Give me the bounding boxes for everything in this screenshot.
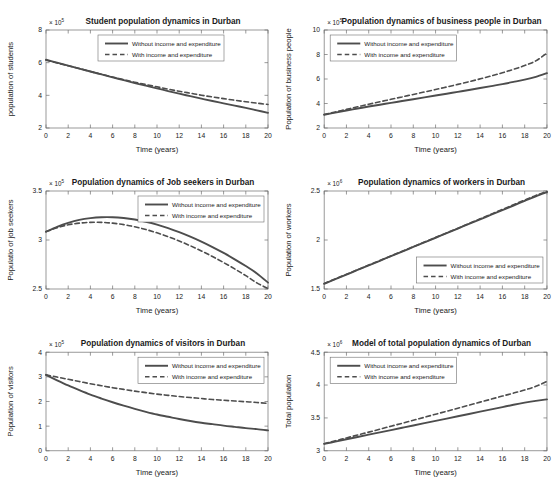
x-tick-label: 10 <box>432 455 440 462</box>
y-tick-label: 3.5 <box>33 187 43 194</box>
chart-title: Model of total population dynamics of Du… <box>352 339 531 348</box>
y-tick-label: 0 <box>38 447 42 454</box>
x-tick-label: 0 <box>44 293 48 300</box>
x-tick-label: 2 <box>345 132 349 139</box>
y-tick-label: 4.5 <box>311 349 321 356</box>
y-tick-label: 4 <box>38 92 42 99</box>
chart-panel-students: 024681012141618202468× 105Student popula… <box>0 0 278 161</box>
y-tick-label: 3 <box>316 447 320 454</box>
legend-label-dashed: With income and expenditure <box>172 212 253 219</box>
y-axis-label: population of students <box>6 42 15 117</box>
x-tick-label: 10 <box>153 132 161 139</box>
x-tick-label: 14 <box>198 455 206 462</box>
y-axis-exponent: × 106 <box>327 340 342 348</box>
x-tick-label: 2 <box>66 293 70 300</box>
x-tick-label: 6 <box>111 455 115 462</box>
y-tick-label: 4 <box>316 381 320 388</box>
legend-label-solid: Without income and expenditure <box>172 362 261 369</box>
chart-title: Population dynamics of visitors in Durba… <box>81 339 245 348</box>
x-tick-label: 12 <box>175 293 183 300</box>
x-tick-label: 16 <box>220 132 228 139</box>
y-tick-label: 6 <box>38 59 42 66</box>
legend: Without income and expenditureWith incom… <box>138 357 264 383</box>
figure-grid: 024681012141618202468× 105Student popula… <box>0 0 557 484</box>
chart-panel-visitors: 0246810121416182001234× 105Population dy… <box>0 322 278 484</box>
y-axis-exponent: × 105 <box>49 340 64 348</box>
chart-title: Population dynamics of Job seekers in Du… <box>72 178 254 187</box>
x-tick-label: 20 <box>264 455 272 462</box>
legend: Without income and expenditureWith incom… <box>330 35 456 61</box>
x-tick-label: 14 <box>198 293 206 300</box>
x-axis-label: Time (years) <box>414 145 457 154</box>
x-tick-label: 14 <box>476 132 484 139</box>
y-tick-label: 4 <box>316 100 320 107</box>
chart-title: Population dynamics of workers in Durban <box>358 178 525 187</box>
chart-panel-workers: 024681012141618201.522.5× 106Population … <box>278 161 557 322</box>
x-tick-label: 8 <box>411 132 415 139</box>
x-tick-label: 16 <box>499 455 507 462</box>
y-tick-label: 8 <box>38 26 42 33</box>
x-tick-label: 14 <box>476 455 484 462</box>
x-tick-label: 8 <box>411 293 415 300</box>
y-tick-label: 1.5 <box>311 285 321 292</box>
y-axis-label: Population of workers <box>284 203 293 276</box>
legend: Without income and expenditureWith incom… <box>138 196 264 222</box>
x-tick-label: 6 <box>389 132 393 139</box>
legend-label-dashed: With income and expenditure <box>132 51 213 58</box>
x-tick-label: 18 <box>521 293 529 300</box>
x-tick-label: 14 <box>198 132 206 139</box>
x-tick-label: 18 <box>521 132 529 139</box>
legend-label-solid: Without income and expenditure <box>364 362 454 369</box>
x-tick-label: 4 <box>367 132 371 139</box>
x-tick-label: 20 <box>543 293 551 300</box>
x-tick-label: 4 <box>367 293 371 300</box>
x-tick-label: 20 <box>264 293 272 300</box>
x-tick-label: 4 <box>367 455 371 462</box>
y-tick-label: 2 <box>38 124 42 131</box>
y-axis-label: Population of visitors <box>6 366 15 437</box>
x-tick-label: 10 <box>432 293 440 300</box>
x-axis-label: Time (years) <box>136 145 179 154</box>
x-tick-label: 8 <box>133 132 137 139</box>
y-tick-label: 1 <box>38 423 42 430</box>
x-tick-label: 0 <box>322 293 326 300</box>
y-axis-exponent: × 105 <box>327 18 342 26</box>
x-tick-label: 6 <box>111 132 115 139</box>
y-tick-label: 4 <box>38 349 42 356</box>
chart-title: Population dynamics of business people i… <box>342 17 542 26</box>
legend: Without income and expenditureWith incom… <box>416 257 542 283</box>
y-axis-exponent: × 106 <box>327 179 342 187</box>
y-axis-label: Populatio of job seekers <box>6 199 15 280</box>
x-axis-label: Time (years) <box>414 306 457 315</box>
legend: Without income and expenditureWith incom… <box>98 35 224 61</box>
x-tick-label: 12 <box>454 293 462 300</box>
legend-label-solid: Without income and expenditure <box>364 40 454 47</box>
y-axis-exponent: × 105 <box>49 18 64 26</box>
x-tick-label: 6 <box>389 293 393 300</box>
x-tick-label: 18 <box>242 455 250 462</box>
y-tick-label: 3 <box>38 373 42 380</box>
x-tick-label: 2 <box>66 132 70 139</box>
x-tick-label: 16 <box>220 293 228 300</box>
x-tick-label: 18 <box>521 455 529 462</box>
x-tick-label: 4 <box>89 132 93 139</box>
x-tick-label: 0 <box>322 455 326 462</box>
x-tick-label: 16 <box>499 293 507 300</box>
x-tick-label: 4 <box>89 293 93 300</box>
x-tick-label: 16 <box>220 455 228 462</box>
y-axis-label: Total population <box>284 375 293 428</box>
x-tick-label: 10 <box>432 132 440 139</box>
chart-panel-job-seekers: 024681012141618202.533.5× 105Population … <box>0 161 278 322</box>
x-tick-label: 6 <box>389 455 393 462</box>
x-tick-label: 10 <box>153 455 161 462</box>
x-tick-label: 20 <box>543 132 551 139</box>
x-tick-label: 4 <box>89 455 93 462</box>
x-tick-label: 8 <box>133 293 137 300</box>
x-tick-label: 0 <box>44 455 48 462</box>
x-tick-label: 8 <box>133 455 137 462</box>
y-axis-exponent: × 105 <box>49 179 64 187</box>
chart-title: Student population dynamics in Durban <box>85 17 240 26</box>
x-tick-label: 2 <box>345 455 349 462</box>
x-tick-label: 6 <box>111 293 115 300</box>
legend-label-solid: Without income and expenditure <box>172 201 261 208</box>
